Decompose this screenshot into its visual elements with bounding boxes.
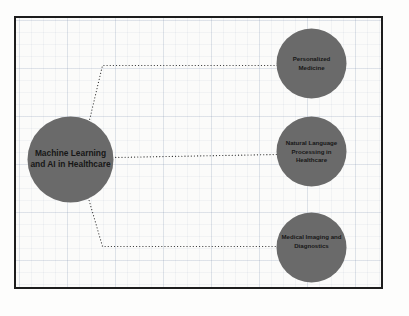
node-hub[interactable]: Machine Learningand AI in Healthcare: [28, 117, 114, 203]
node-medical-imaging[interactable]: Medical Imaging andDiagnostics: [277, 213, 347, 283]
diagram-canvas: Machine Learningand AI in HealthcarePers…: [0, 0, 409, 316]
edge-hub-personalized-medicine: [88, 66, 279, 129]
edge-hub-nlp-healthcare: [113, 155, 277, 158]
nodes-layer: Machine Learningand AI in HealthcarePers…: [28, 29, 347, 283]
edges-layer: [87, 66, 279, 247]
mindmap-svg: Machine Learningand AI in HealthcarePers…: [16, 18, 381, 287]
node-label-hub: Machine Learningand AI in Healthcare: [30, 148, 111, 169]
edge-hub-medical-imaging: [87, 192, 278, 247]
diagram-frame: Machine Learningand AI in HealthcarePers…: [14, 16, 383, 289]
node-personalized-medicine[interactable]: PersonalizedMedicine: [277, 29, 347, 99]
node-nlp-healthcare[interactable]: Natural LanguageProcessing inHealthcare: [277, 117, 347, 187]
